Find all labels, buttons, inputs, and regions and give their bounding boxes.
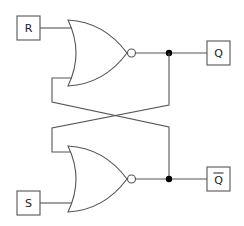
input-s: S [17,191,40,215]
input-s-label: S [25,197,32,210]
output-qbar: Q [207,167,230,191]
nor-bottom-body [68,146,127,212]
nor-top-body [68,20,127,86]
input-r: R [17,16,40,40]
nor-gate-top [68,20,136,86]
output-q-label: Q [214,47,223,60]
output-q: Q [207,41,230,65]
input-r-label: R [25,22,33,35]
nor-bottom-inversion-bubble [128,175,136,183]
sr-latch-diagram: R Q Q S [0,0,244,226]
output-qbar-label: Q [214,174,223,187]
nor-gate-bottom [68,146,136,212]
junction-dot-qbar [166,176,172,182]
nor-top-inversion-bubble [128,49,136,57]
